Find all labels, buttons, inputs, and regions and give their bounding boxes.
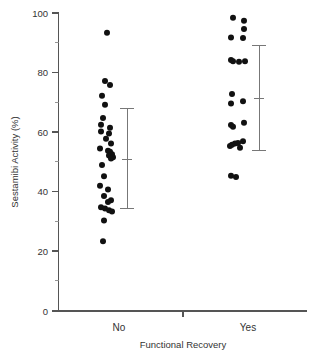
y-axis: 100 80 60 40 20 0 Sestamibi Activity (%) [9, 8, 59, 317]
data-point [227, 143, 233, 149]
y-tick-label-80: 80 [37, 67, 48, 78]
x-category-label-yes: Yes [240, 322, 256, 333]
data-point [97, 183, 103, 189]
data-point [100, 238, 106, 244]
data-point [229, 91, 235, 97]
x-category-label-no: No [113, 322, 126, 333]
data-point [107, 82, 113, 88]
data-point [103, 136, 109, 142]
data-point [228, 34, 234, 40]
data-point [230, 124, 236, 130]
y-tick-label-100: 100 [32, 8, 48, 19]
y-tick-label-20: 20 [37, 246, 48, 257]
data-points-layer [97, 15, 248, 245]
data-point [230, 58, 236, 64]
x-axis: No Yes Functional Recovery [59, 311, 308, 350]
data-point [101, 193, 107, 199]
data-point [99, 93, 105, 99]
data-point [241, 18, 247, 24]
data-point [106, 130, 112, 136]
data-point [107, 125, 113, 131]
data-point [228, 101, 234, 107]
error-bars-layer [120, 45, 266, 208]
data-point [230, 15, 236, 21]
data-point [99, 162, 105, 168]
scatter-plot-figure: 100 80 60 40 20 0 Sestamibi Activity (%)… [0, 0, 323, 361]
data-point [102, 102, 108, 108]
y-tick-label-60: 60 [37, 127, 48, 138]
data-point [102, 78, 108, 84]
data-point [108, 155, 114, 161]
data-point [105, 199, 111, 205]
y-tick-label-0: 0 [43, 306, 48, 317]
data-point [228, 173, 234, 179]
data-point [98, 122, 104, 128]
data-point [237, 145, 243, 151]
plot-canvas: 100 80 60 40 20 0 Sestamibi Activity (%)… [0, 0, 323, 361]
data-point [100, 115, 106, 121]
data-point [98, 129, 104, 135]
data-point [240, 35, 246, 41]
data-point [233, 174, 239, 180]
data-point [97, 146, 103, 152]
data-point [105, 186, 111, 192]
data-point [101, 217, 107, 223]
data-point [236, 59, 242, 65]
data-point [101, 173, 107, 179]
data-point [109, 208, 115, 214]
y-axis-title: Sestamibi Activity (%) [9, 116, 20, 207]
data-point [240, 98, 246, 104]
x-axis-title: Functional Recovery [140, 339, 227, 350]
data-point [241, 26, 247, 32]
y-tick-label-40: 40 [37, 186, 48, 197]
data-point [108, 141, 114, 147]
data-point [104, 30, 110, 36]
data-point [241, 120, 247, 126]
data-point [242, 58, 248, 64]
